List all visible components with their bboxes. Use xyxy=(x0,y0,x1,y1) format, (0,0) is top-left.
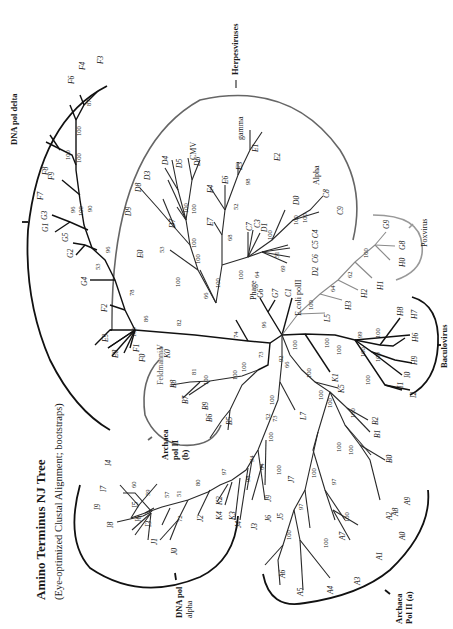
svg-text:A9: A9 xyxy=(403,496,412,506)
svg-text:D4: D4 xyxy=(161,156,170,166)
svg-text:66: 66 xyxy=(202,292,209,299)
label-ecoli: E.coli polII xyxy=(294,279,303,316)
svg-text:100: 100 xyxy=(182,203,189,213)
svg-text:H3: H3 xyxy=(344,301,353,311)
svg-text:100: 100 xyxy=(266,230,273,240)
svg-text:E8: E8 xyxy=(111,349,120,359)
svg-text:62: 62 xyxy=(346,272,353,279)
svg-text:J0: J0 xyxy=(170,548,179,555)
svg-text:A6: A6 xyxy=(278,569,287,579)
svg-text:69: 69 xyxy=(279,266,286,273)
tick-archaea-pol2b xyxy=(148,437,152,440)
svg-text:100: 100 xyxy=(323,338,330,348)
svg-text:78: 78 xyxy=(128,290,135,297)
svg-text:100: 100 xyxy=(310,468,317,478)
svg-text:H6: H6 xyxy=(411,333,420,343)
svg-text:100: 100 xyxy=(374,328,381,338)
svg-text:C6: C6 xyxy=(311,254,320,263)
svg-text:J6: J6 xyxy=(264,515,273,522)
svg-text:87: 87 xyxy=(85,99,92,106)
svg-text:Pol II (a): Pol II (a) xyxy=(404,591,414,624)
svg-text:G6: G6 xyxy=(256,289,265,298)
svg-text:I8: I8 xyxy=(106,522,115,529)
svg-text:F3: F3 xyxy=(96,55,105,65)
svg-text:H0: H0 xyxy=(398,258,407,268)
svg-text:100: 100 xyxy=(174,277,181,287)
svg-text:100: 100 xyxy=(335,345,342,355)
svg-text:G1: G1 xyxy=(41,223,50,232)
svg-text:97: 97 xyxy=(330,478,337,485)
svg-text:E3: E3 xyxy=(235,161,244,171)
svg-text:C8: C8 xyxy=(322,189,331,198)
svg-text:86: 86 xyxy=(142,315,149,322)
svg-text:F1: F1 xyxy=(132,344,141,353)
svg-text:100: 100 xyxy=(349,408,356,418)
svg-text:E2: E2 xyxy=(273,152,282,162)
svg-text:80: 80 xyxy=(194,480,201,487)
svg-text:100: 100 xyxy=(291,340,298,350)
svg-text:A5: A5 xyxy=(296,587,305,597)
svg-text:J7: J7 xyxy=(287,476,296,483)
figure-title: Amino Terminus NJ Tree xyxy=(33,459,48,600)
svg-text:100: 100 xyxy=(202,375,209,385)
svg-text:J3: J3 xyxy=(250,523,259,530)
svg-text:I4: I4 xyxy=(104,460,113,467)
svg-text:60: 60 xyxy=(130,482,137,489)
svg-text:D2: D2 xyxy=(311,267,320,277)
svg-text:G9: G9 xyxy=(382,220,391,229)
svg-text:G2: G2 xyxy=(66,249,75,258)
svg-text:52: 52 xyxy=(232,204,239,211)
svg-text:100: 100 xyxy=(214,278,221,288)
svg-text:A0: A0 xyxy=(398,531,407,541)
svg-text:100: 100 xyxy=(130,327,137,337)
svg-text:C9: C9 xyxy=(336,206,345,215)
svg-text:100: 100 xyxy=(292,215,299,225)
svg-text:C1: C1 xyxy=(284,288,293,297)
svg-text:100: 100 xyxy=(374,352,381,362)
tick-archaea-pol2a xyxy=(385,590,390,594)
svg-text:100: 100 xyxy=(335,442,342,452)
svg-text:97: 97 xyxy=(220,468,227,475)
svg-text:G3: G3 xyxy=(40,211,49,220)
svg-text:K1: K1 xyxy=(331,373,340,383)
svg-text:94: 94 xyxy=(248,455,255,462)
svg-text:H9: H9 xyxy=(410,356,419,366)
svg-text:D6: D6 xyxy=(193,157,202,167)
svg-text:59: 59 xyxy=(144,490,151,497)
svg-text:(b): (b) xyxy=(180,449,190,460)
svg-text:J5: J5 xyxy=(276,513,285,520)
svg-text:66: 66 xyxy=(283,361,290,368)
svg-text:pol II: pol II xyxy=(170,439,180,460)
svg-text:100: 100 xyxy=(322,538,329,548)
svg-text:100: 100 xyxy=(275,465,282,475)
svg-text:100: 100 xyxy=(364,375,371,385)
svg-text:I1: I1 xyxy=(396,382,405,389)
clade-baculovirus xyxy=(282,318,412,390)
svg-text:B0: B0 xyxy=(385,454,394,463)
svg-text:K0: K0 xyxy=(163,349,172,359)
svg-text:D3: D3 xyxy=(143,171,152,181)
svg-text:100: 100 xyxy=(347,445,354,455)
svg-text:J9: J9 xyxy=(264,495,273,502)
svg-text:90: 90 xyxy=(86,206,93,213)
svg-text:100: 100 xyxy=(190,204,197,214)
label-gamma: gamma xyxy=(236,116,245,140)
svg-text:D9: D9 xyxy=(124,207,133,217)
svg-text:I0: I0 xyxy=(403,372,412,379)
svg-text:J2: J2 xyxy=(196,515,205,522)
svg-text:98: 98 xyxy=(244,179,251,186)
label-dna-pol-alpha: DNA pol alpha xyxy=(174,586,194,618)
svg-text:82: 82 xyxy=(175,320,182,327)
svg-text:73: 73 xyxy=(257,352,264,359)
svg-text:A2: A2 xyxy=(385,511,394,521)
svg-text:B1: B1 xyxy=(373,430,382,438)
svg-text:A4: A4 xyxy=(326,585,335,595)
svg-text:F0: F0 xyxy=(138,353,147,363)
svg-text:E6: E6 xyxy=(221,175,230,185)
svg-text:H2: H2 xyxy=(360,289,369,299)
svg-text:100: 100 xyxy=(326,398,333,408)
svg-text:E9: E9 xyxy=(101,333,110,343)
svg-text:K3: K3 xyxy=(228,511,237,521)
svg-text:J1: J1 xyxy=(150,538,159,545)
svg-text:100: 100 xyxy=(305,368,312,378)
